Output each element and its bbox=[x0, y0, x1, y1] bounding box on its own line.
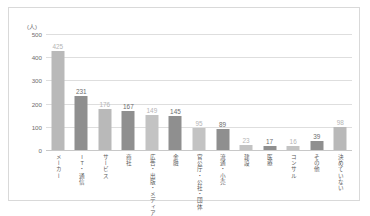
x-axis-category-label: 医療 bbox=[267, 154, 273, 166]
bar bbox=[75, 96, 88, 150]
x-axis-category-label: 官公庁・公社・団体 bbox=[196, 154, 202, 210]
bar bbox=[169, 116, 182, 150]
bar-group: 167商社 bbox=[117, 34, 141, 150]
x-axis-category-label: サービス bbox=[102, 154, 108, 179]
bar bbox=[145, 115, 158, 150]
bar bbox=[310, 141, 323, 150]
x-axis-category-label: 商社 bbox=[126, 154, 132, 166]
y-axis-tick-label: 400 bbox=[8, 54, 42, 61]
bar bbox=[240, 145, 253, 150]
x-axis-category-label: コンサル bbox=[290, 154, 296, 179]
bar bbox=[287, 146, 300, 150]
x-axis-line bbox=[46, 150, 352, 151]
bar-value-label: 176 bbox=[99, 101, 110, 108]
y-axis-tick-label: 0 bbox=[8, 147, 42, 154]
bar bbox=[98, 109, 111, 150]
x-axis-category-label: メーカー bbox=[55, 154, 61, 179]
bar-group: 149広告・出版・メディア bbox=[140, 34, 164, 150]
bar-group: 89流通・小売 bbox=[211, 34, 235, 150]
bar-group: 23建設 bbox=[234, 34, 258, 150]
bar-group: 176サービス bbox=[93, 34, 117, 150]
bar-value-label: 16 bbox=[290, 138, 297, 145]
bar bbox=[216, 129, 229, 150]
bar-group: 39その他 bbox=[305, 34, 329, 150]
x-axis-category-label: 広告・出版・メディア bbox=[149, 154, 155, 210]
bar-group: 231IT・通信 bbox=[70, 34, 94, 150]
x-axis-category-label: 金融 bbox=[173, 154, 179, 166]
bar-value-label: 167 bbox=[123, 103, 134, 110]
x-axis-category-label: IT・通信 bbox=[79, 154, 85, 185]
bar-value-label: 39 bbox=[313, 133, 320, 140]
bar bbox=[334, 127, 347, 150]
bar-group: 16コンサル bbox=[281, 34, 305, 150]
x-axis-category-label: その他 bbox=[314, 154, 320, 173]
chart-frame: (人) 0100200300400500 425メーカー231IT・通信176サ… bbox=[8, 7, 360, 201]
plot-area: 0100200300400500 425メーカー231IT・通信176サービス1… bbox=[46, 34, 352, 150]
bar-group: 95官公庁・公社・団体 bbox=[187, 34, 211, 150]
bar-group: 17医療 bbox=[258, 34, 282, 150]
bar-group: 425メーカー bbox=[46, 34, 70, 150]
x-axis-category-label: 決めていない bbox=[337, 154, 343, 191]
bar bbox=[263, 146, 276, 150]
bar-group: 98決めていない bbox=[328, 34, 352, 150]
bar-value-label: 17 bbox=[266, 138, 273, 145]
bar-value-label: 425 bbox=[52, 43, 63, 50]
bar-value-label: 23 bbox=[243, 137, 250, 144]
bar-value-label: 149 bbox=[147, 107, 158, 114]
bar bbox=[122, 111, 135, 150]
y-axis-tick-label: 300 bbox=[8, 77, 42, 84]
bar-value-label: 231 bbox=[76, 88, 87, 95]
y-axis-tick-label: 200 bbox=[8, 100, 42, 107]
x-axis-category-label: 流通・小売 bbox=[220, 154, 226, 185]
bar-group: 145金融 bbox=[164, 34, 188, 150]
bar-value-label: 95 bbox=[195, 120, 202, 127]
bar-value-label: 145 bbox=[170, 108, 181, 115]
bar bbox=[192, 128, 205, 150]
x-axis-category-label: 建設 bbox=[243, 154, 249, 166]
y-axis-tick-label: 100 bbox=[8, 123, 42, 130]
bar bbox=[51, 51, 64, 150]
y-axis-tick-label: 500 bbox=[8, 31, 42, 38]
bar-value-label: 89 bbox=[219, 121, 226, 128]
bar-value-label: 98 bbox=[337, 119, 344, 126]
